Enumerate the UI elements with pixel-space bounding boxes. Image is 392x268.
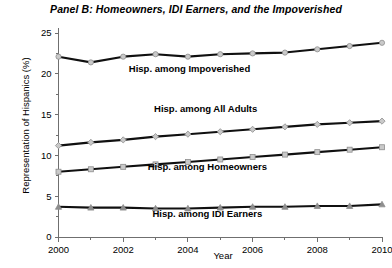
series-1 [56, 40, 385, 65]
data-point-marker [314, 121, 320, 127]
y-tick-label: 5 [46, 191, 51, 202]
data-point-marker [282, 152, 287, 157]
data-point-marker [88, 60, 93, 65]
x-tick-label: 2010 [371, 244, 392, 255]
data-point-marker [250, 126, 256, 132]
data-point-marker [347, 43, 352, 48]
plot-area: 0510152025200020022004200620082010 Hisp.… [0, 0, 392, 268]
data-point-marker [282, 50, 287, 55]
series-annotation-label: Hisp. among All Adults [154, 103, 257, 114]
data-point-marker [56, 169, 61, 174]
y-tick-label: 25 [41, 27, 52, 38]
data-point-marker [153, 52, 158, 57]
x-tick-label: 2004 [177, 244, 198, 255]
series-2 [55, 118, 385, 149]
y-tick-label: 20 [41, 68, 52, 79]
data-point-marker [88, 139, 94, 145]
data-point-marker [185, 54, 190, 59]
x-tick-label: 2008 [307, 244, 328, 255]
data-point-marker [379, 40, 384, 45]
data-point-marker [217, 129, 223, 135]
series-labels: Hisp. among ImpoverishedHisp. among All … [129, 63, 267, 219]
data-point-marker [55, 143, 61, 149]
data-point-marker [88, 167, 93, 172]
data-point-marker [121, 164, 126, 169]
data-point-marker [120, 137, 126, 143]
data-point-marker [315, 150, 320, 155]
series-annotation-label: Hisp. among Impoverished [129, 63, 251, 74]
data-point-marker [250, 155, 255, 160]
series-annotation-label: Hisp. among IDI Earners [152, 208, 262, 219]
data-point-marker [282, 124, 288, 130]
data-point-marker [56, 54, 61, 59]
data-point-marker [379, 118, 385, 124]
data-point-marker [380, 145, 385, 150]
y-tick-label: 0 [46, 231, 51, 242]
x-tick-label: 2002 [113, 244, 134, 255]
chart-figure: Panel B: Homeowners, IDI Earners, and th… [0, 0, 392, 268]
data-point-marker [347, 120, 353, 126]
x-tick-label: 2000 [48, 244, 69, 255]
y-tick-label: 15 [41, 109, 52, 120]
data-point-marker [347, 147, 352, 152]
x-tick-label: 2006 [242, 244, 263, 255]
data-point-marker [121, 54, 126, 59]
y-tick-label: 10 [41, 150, 52, 161]
data-point-marker [218, 52, 223, 57]
data-point-marker [315, 47, 320, 52]
data-point-marker [152, 134, 158, 140]
series-annotation-label: Hisp. among Homeowners [148, 161, 267, 172]
data-point-marker [185, 131, 191, 137]
data-point-marker [250, 51, 255, 56]
